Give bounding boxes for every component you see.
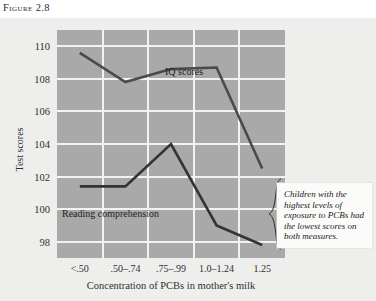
- y-tick-label: 108: [12, 73, 50, 84]
- x-axis-title: Concentration of PCBs in mother's milk: [57, 280, 285, 291]
- y-tick-label: 98: [12, 236, 50, 247]
- y-tick-label: 100: [12, 204, 50, 215]
- y-tick-label: 110: [12, 41, 50, 52]
- iq-series-label: IQ scores: [165, 66, 203, 77]
- x-tick-label: 1.25: [253, 263, 271, 274]
- x-tick-label: .75–.99: [156, 263, 186, 274]
- figure-panel: 98100102104106108110 <.50.50–.74.75–.991…: [0, 18, 376, 301]
- x-tick-label: .50–.74: [110, 263, 140, 274]
- reading-series-label: Reading comprehension: [62, 208, 159, 219]
- callout-box: Children with the highest levels of expo…: [277, 183, 372, 248]
- x-tick-label: <.50: [71, 263, 89, 274]
- chart-container: 98100102104106108110 <.50.50–.74.75–.991…: [0, 18, 376, 301]
- y-axis-title: Test scores: [14, 110, 25, 190]
- x-tick-label: 1.0–1.24: [199, 263, 234, 274]
- figure-label: Figure 2.8: [3, 2, 50, 13]
- y-axis-ticks: 98100102104106108110: [0, 18, 376, 301]
